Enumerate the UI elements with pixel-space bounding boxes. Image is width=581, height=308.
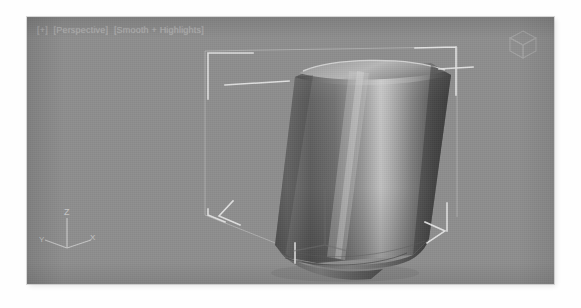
- gizmo-z-label: Z: [322, 177, 328, 187]
- object-pivot-gizmo[interactable]: Z: [289, 165, 359, 255]
- viewport-label[interactable]: [+] [Perspective] [Smooth + Highlights]: [37, 25, 207, 36]
- world-axis-tripod: Z Y X: [39, 204, 97, 258]
- app-window: Z Z Y X [+] [Perspective] [Smooth + High…: [0, 0, 581, 308]
- viewport-label-shading[interactable]: [Smooth + Highlights]: [114, 25, 204, 35]
- viewport-label-toggle[interactable]: [+]: [37, 25, 48, 35]
- world-axis-x-label: X: [90, 233, 96, 242]
- viewport-label-view[interactable]: [Perspective]: [54, 25, 109, 35]
- view-cube[interactable]: [506, 27, 540, 61]
- world-axis-y-label: Y: [39, 235, 45, 244]
- world-axis-z-label: Z: [64, 207, 70, 217]
- perspective-viewport[interactable]: Z Z Y X [+] [Perspective] [Smooth + High…: [27, 17, 554, 284]
